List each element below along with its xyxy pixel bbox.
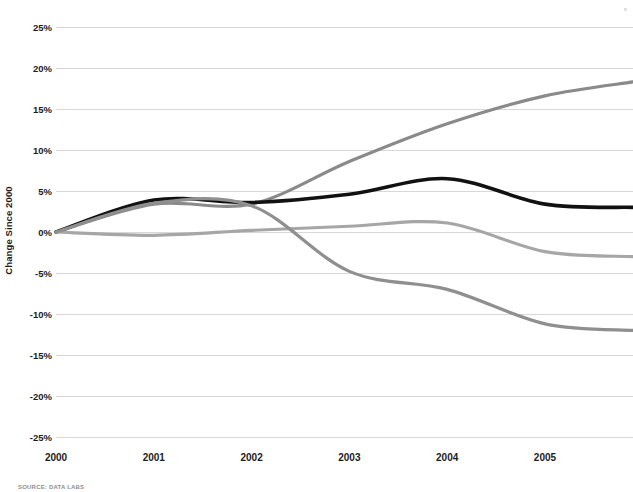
plot-area	[0, 0, 633, 492]
series-line-series-rising	[56, 82, 633, 232]
series-lines	[56, 82, 633, 330]
line-chart: Change Since 2000 25%20%15%10%5%0%-5%-10…	[0, 0, 633, 492]
series-line-series-mid-gray	[56, 222, 633, 257]
series-line-series-declining	[56, 199, 633, 331]
corner-mark	[624, 8, 627, 11]
source-note: SOURCE: DATA LABS	[18, 484, 84, 490]
gridlines	[56, 28, 633, 438]
